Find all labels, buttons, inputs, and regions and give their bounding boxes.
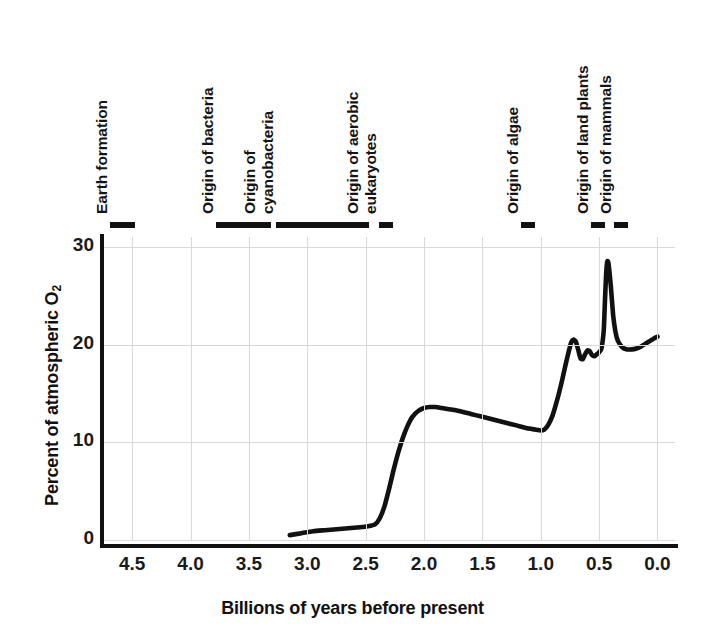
x-tick-label: 1.0 xyxy=(513,553,569,575)
x-tick-label: 4.0 xyxy=(163,553,219,575)
gridline-vertical xyxy=(366,237,367,540)
oxygen-history-chart: Earth formation Origin of bacteria Origi… xyxy=(0,0,705,644)
y-axis-line xyxy=(100,234,104,544)
gridline-vertical xyxy=(132,237,133,540)
x-tick-label: 1.5 xyxy=(454,553,510,575)
gridline-horizontal xyxy=(103,345,675,346)
x-tick-label: 3.5 xyxy=(221,553,277,575)
event-marker-origin-of-algae xyxy=(521,222,535,228)
gridline-vertical xyxy=(599,237,600,540)
x-axis-title: Billions of years before present xyxy=(0,598,705,619)
event-marker-origin-of-bacteria xyxy=(216,222,271,228)
x-tick-label: 3.0 xyxy=(279,553,335,575)
x-tick-label: 0.0 xyxy=(629,553,685,575)
plot-area xyxy=(103,237,675,540)
gridline-horizontal xyxy=(103,540,675,541)
event-marker-origin-of-aerobic-eukaryotes xyxy=(379,222,393,228)
x-tick-label: 2.0 xyxy=(396,553,452,575)
event-label-earth-formation: Earth formation xyxy=(93,100,110,214)
event-marker-origin-of-mammals xyxy=(614,222,628,228)
oxygen-curve-path xyxy=(290,261,658,535)
gridline-vertical xyxy=(541,237,542,540)
event-label-origin-of-cyanobacteria: Origin of cyanobacteria xyxy=(241,111,276,214)
event-label-origin-of-mammals: Origin of mammals xyxy=(597,75,614,214)
oxygen-curve xyxy=(103,237,675,540)
event-marker-earth-formation xyxy=(110,222,135,228)
event-label-origin-of-land-plants: Origin of land plants xyxy=(574,65,591,214)
gridline-vertical xyxy=(249,237,250,540)
gridline-horizontal xyxy=(103,247,675,248)
gridline-vertical xyxy=(482,237,483,540)
gridline-vertical xyxy=(424,237,425,540)
x-axis-line xyxy=(100,544,678,548)
event-label-origin-of-algae: Origin of algae xyxy=(504,107,521,214)
event-marker-origin-of-land-plants xyxy=(591,222,605,228)
gridline-vertical xyxy=(657,237,658,540)
event-label-origin-of-bacteria: Origin of bacteria xyxy=(199,87,216,214)
x-tick-label: 4.5 xyxy=(104,553,160,575)
x-tick-label: 2.5 xyxy=(338,553,394,575)
event-annotation-band: Earth formation Origin of bacteria Origi… xyxy=(0,0,705,228)
event-marker-origin-of-cyanobacteria xyxy=(276,222,369,228)
event-label-origin-of-aerobic-eukaryotes: Origin of aerobic eukaryotes xyxy=(344,92,379,214)
gridline-vertical xyxy=(307,237,308,540)
y-axis-title: Percent of atmospheric O2 xyxy=(42,241,63,551)
x-tick-label: 0.5 xyxy=(571,553,627,575)
gridline-horizontal xyxy=(103,442,675,443)
gridline-vertical xyxy=(191,237,192,540)
